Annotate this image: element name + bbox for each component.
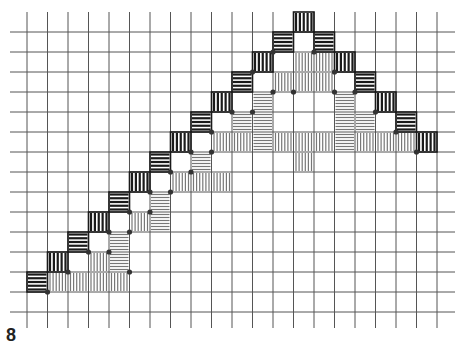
junction-dot: [127, 269, 132, 274]
junction-dot: [311, 49, 316, 54]
junction-dot: [147, 189, 152, 194]
junction-dot: [209, 149, 214, 154]
junction-dot: [270, 89, 275, 94]
junction-dot: [250, 69, 255, 74]
junction-dot: [86, 249, 91, 254]
junction-dot: [188, 169, 193, 174]
junction-dot: [127, 229, 132, 234]
junction-dot: [147, 209, 152, 214]
figure-label: 8: [6, 326, 16, 344]
junction-dot: [291, 89, 296, 94]
junction-dot: [168, 189, 173, 194]
junction-dot: [168, 169, 173, 174]
junction-dot: [352, 89, 357, 94]
junction-dot: [45, 289, 50, 294]
pattern-diagram: [0, 0, 463, 344]
junction-dot: [332, 69, 337, 74]
junction-dot: [106, 229, 111, 234]
junction-dot: [229, 109, 234, 114]
junction-dot: [393, 129, 398, 134]
junction-dot: [127, 209, 132, 214]
junction-dot: [209, 129, 214, 134]
junction-dot: [250, 109, 255, 114]
junction-dot: [106, 249, 111, 254]
junction-dot: [332, 89, 337, 94]
junction-dot: [270, 49, 275, 54]
junction-dot: [188, 149, 193, 154]
junction-dot: [414, 149, 419, 154]
junction-dot: [65, 269, 70, 274]
junction-dot: [373, 109, 378, 114]
